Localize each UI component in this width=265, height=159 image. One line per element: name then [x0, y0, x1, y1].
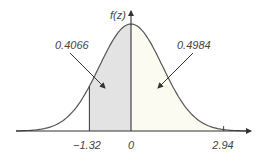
normal-distribution-chart: f(z) 0.4066 0.4984 −1.32 0 2.94 [0, 0, 265, 159]
area-label-right: 0.4984 [177, 39, 211, 51]
shaded-region-left [89, 24, 131, 131]
area-label-left: 0.4066 [55, 39, 90, 51]
y-axis-label: f(z) [110, 9, 126, 21]
x-tick-label-zero: 0 [128, 139, 135, 151]
x-tick-label-neg: −1.32 [73, 139, 101, 151]
x-tick-label-pos: 2.94 [211, 139, 233, 151]
